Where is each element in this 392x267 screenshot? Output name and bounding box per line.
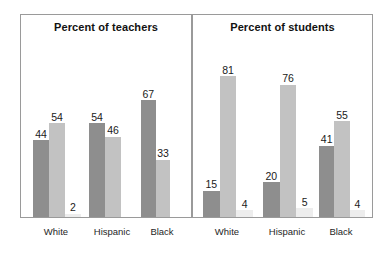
bar-slot-3: [236, 43, 253, 217]
panel-title-students: Percent of students: [193, 21, 372, 33]
bar-group-black: [141, 43, 185, 217]
x-tick-label-white: White: [215, 226, 239, 237]
bar-white-3: [236, 210, 253, 217]
bar-black-1: [319, 146, 334, 217]
bar-black-2: [334, 121, 349, 217]
panel-percent-of-students: Percent of students 158142076541554: [192, 14, 373, 218]
x-tick-label-hispanic: Hispanic: [269, 226, 305, 237]
bar-slot-2: [220, 43, 237, 217]
bar-slot-3: [121, 43, 137, 217]
bar-slot-3: [65, 43, 81, 217]
x-tick-label-black: Black: [329, 226, 352, 237]
bar-slot-1: [141, 43, 156, 217]
bar-group-bars: [319, 43, 365, 217]
bar-group-bars: [141, 43, 185, 217]
bar-black-2: [156, 160, 171, 217]
bar-group-bars: [33, 43, 81, 217]
bar-hispanic-2: [105, 137, 121, 217]
plot-area-students: 158142076541554: [193, 43, 372, 217]
bar-slot-2: [334, 43, 349, 217]
bar-group-hispanic: [263, 43, 313, 217]
bar-group-bars: [263, 43, 313, 217]
bar-group-hispanic: [89, 43, 137, 217]
bar-slot-3: [296, 43, 313, 217]
bar-white-3: [65, 214, 81, 217]
panel-percent-of-teachers: Percent of teachers 4454254466733: [20, 14, 192, 218]
bar-black-3: [350, 210, 365, 217]
plot-area-teachers: 4454254466733: [21, 43, 191, 217]
bar-slot-1: [319, 43, 334, 217]
bar-hispanic-2: [280, 85, 297, 217]
bar-slot-3: [350, 43, 365, 217]
x-tick-label-hispanic: Hispanic: [94, 226, 130, 237]
x-tick-label-white: White: [44, 226, 68, 237]
panel-container: Percent of teachers 4454254466733 Percen…: [20, 14, 373, 218]
bar-group-black: [319, 43, 365, 217]
bar-black-1: [141, 100, 156, 217]
bar-group-white: [33, 43, 81, 217]
bar-group-bars: [89, 43, 137, 217]
panel-title-teachers: Percent of teachers: [21, 21, 191, 33]
bar-white-2: [49, 123, 65, 217]
bar-slot-2: [156, 43, 171, 217]
bar-hispanic-3: [296, 208, 313, 217]
bar-slot-2: [49, 43, 65, 217]
bar-slot-2: [105, 43, 121, 217]
chart-figure: Percent of teachers 4454254466733 Percen…: [0, 0, 392, 267]
bar-white-1: [203, 191, 220, 217]
x-axis-labels: WhiteHispanicBlackWhiteHispanicBlack: [20, 224, 373, 244]
bar-slot-3: [170, 43, 185, 217]
bar-white-2: [220, 76, 237, 217]
bar-hispanic-1: [263, 182, 280, 217]
bar-hispanic-1: [89, 123, 105, 217]
bar-slot-1: [203, 43, 220, 217]
bar-slot-1: [33, 43, 49, 217]
bar-white-1: [33, 140, 49, 217]
bar-slot-1: [263, 43, 280, 217]
x-tick-label-black: Black: [150, 226, 173, 237]
bar-slot-2: [280, 43, 297, 217]
bar-slot-1: [89, 43, 105, 217]
bar-group-white: [203, 43, 253, 217]
bar-group-bars: [203, 43, 253, 217]
